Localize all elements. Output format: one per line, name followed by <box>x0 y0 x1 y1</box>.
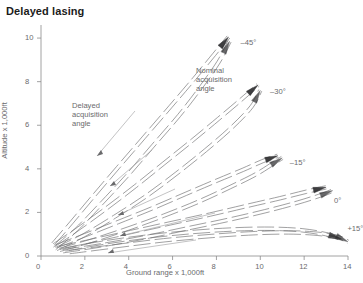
series-plus-15 <box>65 227 349 254</box>
curve-label-minus-15: –15° <box>290 158 306 167</box>
x-tick-label: 0 <box>36 262 40 271</box>
x-tick-label: 12 <box>299 262 307 271</box>
x-tick-label: 14 <box>343 262 351 271</box>
y-tick-label: 10 <box>25 33 33 42</box>
y-axis-ticks <box>37 38 41 256</box>
x-tick-label: 8 <box>211 262 215 271</box>
trajectory-nominal-minus-15 <box>56 154 279 248</box>
trajectory-delayed-minus-15 <box>59 156 283 251</box>
curve-label-zero: 0° <box>334 196 341 205</box>
leader-arrow-delayed-15 <box>118 189 175 215</box>
annotation-delayed-line-1: Delayed <box>72 101 108 110</box>
annotation-delayed-acquisition-angle: Delayed acquisition angle <box>72 101 108 129</box>
x-tick-label: 10 <box>255 262 263 271</box>
annotation-delayed-line-2: acquisition <box>72 110 108 119</box>
curve-label-minus-45: –45° <box>240 38 256 47</box>
y-tick-label: 0 <box>25 251 29 260</box>
series-zero <box>59 186 333 253</box>
y-tick-label: 6 <box>25 120 29 129</box>
trajectory-nominal-zero <box>59 186 326 250</box>
x-axis-ticks <box>41 256 348 260</box>
x-tick-label: 4 <box>124 262 128 271</box>
annotation-nominal-line-1: Nominal <box>196 66 232 75</box>
curve-label-plus-15: +15° <box>347 224 363 233</box>
annotation-delayed-line-3: angle <box>72 119 108 128</box>
annotation-nominal-line-2: acquisition <box>196 75 232 84</box>
annotation-nominal-line-3: angle <box>196 84 232 93</box>
x-axis-title: Ground range x 1,000ft <box>126 268 204 277</box>
y-tick-label: 2 <box>25 207 29 216</box>
annotation-nominal-acquisition-angle: Nominal acquisition angle <box>196 66 232 94</box>
x-tick-label: 6 <box>168 262 172 271</box>
y-axis-title: Altitude x 1,000ft <box>0 102 9 159</box>
curve-label-minus-30: –30° <box>270 87 286 96</box>
x-tick-label: 2 <box>80 262 84 271</box>
y-tick-label: 8 <box>25 77 29 86</box>
y-tick-label: 4 <box>25 164 29 173</box>
trajectory-delayed-plus-15 <box>69 231 348 254</box>
